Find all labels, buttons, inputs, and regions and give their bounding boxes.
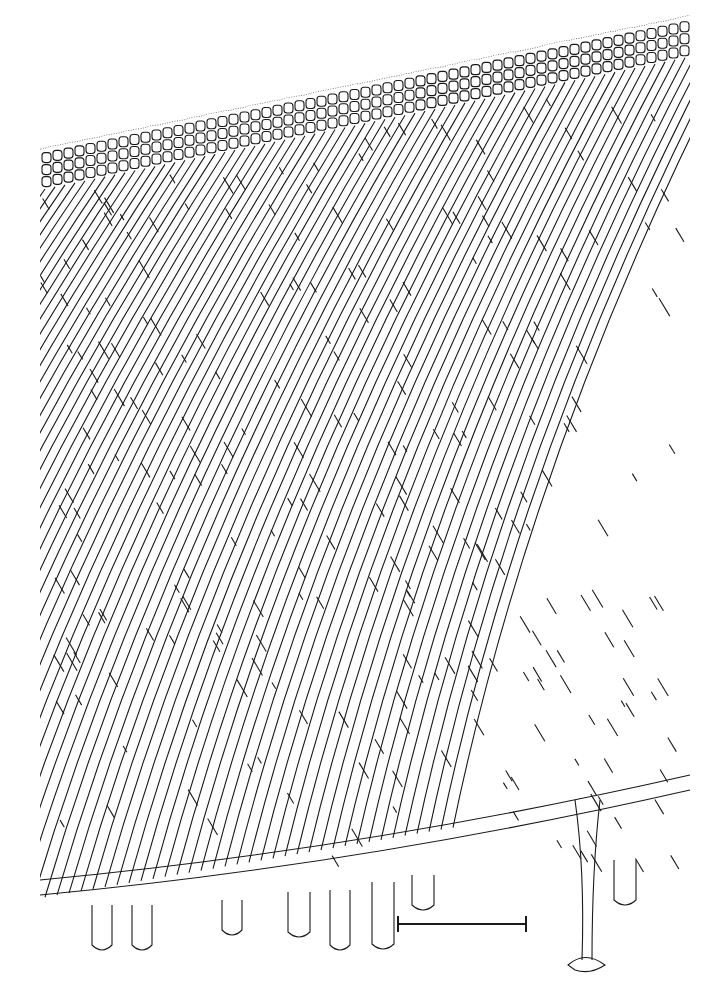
tissue-drawing xyxy=(0,0,725,1005)
figure-canvas xyxy=(0,0,725,1005)
